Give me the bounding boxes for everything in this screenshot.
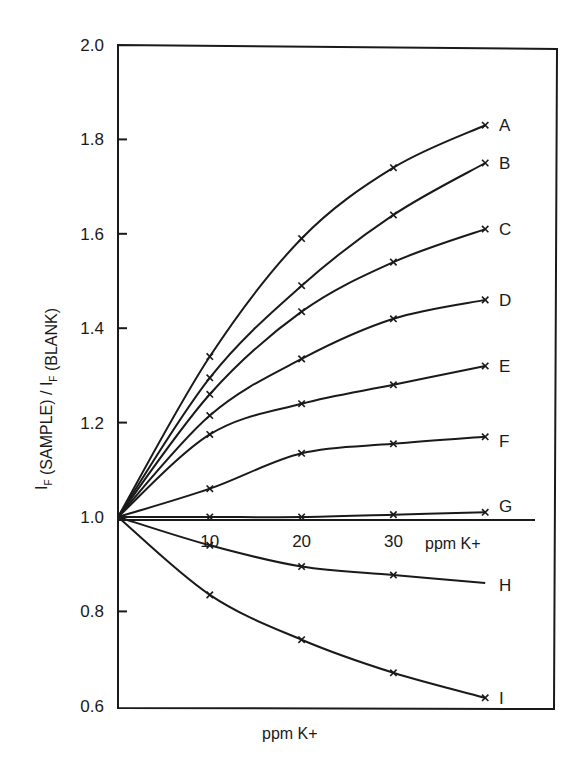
plot-frame [118,45,557,709]
inner-x-axis-label: ppm K+ [425,535,481,552]
series-label-a: A [499,116,511,135]
y-axis-ticks: 2.01.81.61.41.21.00.80.6 [80,36,127,716]
x-tick-label: 10 [200,532,219,551]
y-tick-label: 1.8 [80,130,104,149]
data-point-marker [207,412,213,418]
series-label-b: B [499,154,510,173]
series-label-c: C [499,220,511,239]
data-point-marker [298,308,304,314]
series-label-e: E [499,357,510,376]
data-point-marker [298,235,304,241]
y-tick-label: 0.6 [80,697,104,716]
curve-a [118,125,485,517]
data-curves [118,125,485,698]
series-label-d: D [499,291,511,310]
x-axis-ticks: 102030 [200,532,403,551]
series-label-i: I [499,689,504,708]
x-axis-title: ppm K+ [262,725,318,742]
series-labels: ABCDEFGHI [499,116,512,708]
y-tick-label: 1.4 [80,319,104,338]
x-tick-label: 30 [384,532,403,551]
data-point-marker [390,165,396,171]
chart: 2.01.81.61.41.21.00.80.6 102030 ABCDEFGH… [0,0,585,776]
y-tick-label: 1.0 [80,508,104,527]
curve-f [118,437,485,517]
curve-d [118,300,485,517]
series-label-h: H [499,576,511,595]
data-point-marker [390,212,396,218]
x-tick-label: 20 [292,532,311,551]
y-tick-label: 0.8 [80,602,104,621]
y-axis-title: IF (SAMPLE) / IF (BLANK) [33,308,60,490]
y-tick-label: 2.0 [80,36,104,55]
data-point-marker [207,353,213,359]
data-point-marker [207,391,213,397]
data-markers [207,122,489,701]
y-tick-label: 1.6 [80,225,104,244]
data-point-marker [207,592,213,598]
data-point-marker [298,356,304,362]
series-label-f: F [499,432,509,451]
data-point-marker [482,160,488,166]
data-point-marker [207,431,213,437]
y-tick-label: 1.2 [80,414,104,433]
data-point-marker [298,283,304,289]
data-point-marker [207,375,213,381]
curve-c [118,229,485,517]
series-label-g: G [499,497,512,516]
